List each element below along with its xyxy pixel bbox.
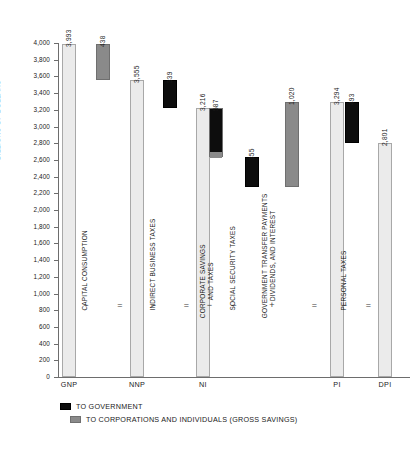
y-axis-tick: [54, 127, 59, 128]
bar-value-label: 3,993: [65, 29, 72, 47]
bar-value-label: 3,216: [199, 94, 206, 112]
bar-value-label: 3,294: [333, 87, 340, 105]
y-axis-tick: [54, 344, 59, 345]
y-axis-tick-label: 2,200: [8, 189, 50, 196]
bar-ni: [196, 108, 210, 377]
step-label: CORPORATE SAVINGSAND TAXES: [198, 244, 213, 318]
y-axis-tick: [54, 60, 59, 61]
y-axis-tick: [54, 110, 59, 111]
y-axis-tick-label: 600: [8, 323, 50, 330]
legend: TO GOVERNMENT TO CORPORATIONS AND INDIVI…: [60, 400, 297, 426]
bar-indirect-business-taxes: [163, 80, 177, 108]
bar-segment-corporations: [210, 152, 222, 158]
y-axis-tick: [54, 177, 59, 178]
y-axis-tick-label: 3,400: [8, 89, 50, 96]
y-axis-tick-label: 400: [8, 340, 50, 347]
legend-item-government: TO GOVERNMENT: [60, 400, 297, 413]
y-axis-tick: [54, 143, 59, 144]
y-axis-tick: [54, 227, 59, 228]
step-label: CAPITAL CONSUMPTION: [81, 230, 89, 310]
step-label: GOVERNMENT TRANSFER PAYMENTSDIVIDENDS, A…: [261, 193, 276, 318]
bar-segment-government: [210, 109, 222, 152]
bar-personal-taxes: [345, 102, 359, 143]
bar-value-label: 1,020: [288, 87, 295, 105]
y-axis-tick-label: 1,200: [8, 273, 50, 280]
y-axis-tick: [54, 260, 59, 261]
bar-nnp: [130, 80, 144, 377]
y-axis-tick-label: 3,000: [8, 123, 50, 130]
y-axis-tick: [54, 377, 59, 378]
y-axis-tick-label: 3,200: [8, 106, 50, 113]
step-label: SOCIAL SECURITY TAXES: [229, 226, 237, 311]
bar-dpi: [378, 143, 392, 377]
y-axis-tick: [54, 294, 59, 295]
bar-capital-consumption: [96, 44, 110, 81]
y-axis-tick-label: 800: [8, 306, 50, 313]
legend-label-corporations: TO CORPORATIONS AND INDIVIDUALS (GROSS S…: [86, 415, 297, 424]
national-income-accounting-chart: BILLIONS OF DOLLARS 02004006008001,0001,…: [0, 0, 420, 451]
y-axis-tick: [54, 160, 59, 161]
y-axis-tick: [54, 193, 59, 194]
y-axis-tick: [54, 310, 59, 311]
step-operator: =: [181, 300, 193, 310]
y-axis-tick: [54, 277, 59, 278]
bar-value-label: 355: [248, 149, 255, 161]
y-axis-tick: [54, 93, 59, 94]
legend-label-government: TO GOVERNMENT: [76, 402, 143, 411]
bar-gnp: [62, 44, 76, 377]
bar-value-label: 587: [212, 100, 219, 112]
y-axis-tick-label: 3,600: [8, 72, 50, 79]
y-axis-tick: [54, 360, 59, 361]
bar-corporate-savings-and-taxes: [209, 108, 223, 157]
bar-value-label: 2,801: [381, 129, 388, 147]
bar-value-label: 339: [166, 72, 173, 84]
step-label: PERSONAL TAXES: [340, 250, 348, 310]
step-label: INDIRECT BUSINESS TAXES: [149, 219, 157, 311]
legend-swatch-government-icon: [60, 403, 71, 410]
x-axis-line: [58, 377, 410, 378]
y-axis-title: BILLIONS OF DOLLARS: [0, 20, 1, 160]
y-axis-tick: [54, 43, 59, 44]
x-axis-label-ni: NI: [199, 380, 207, 389]
step-operator: =: [363, 300, 375, 310]
step-operator: =: [114, 300, 126, 310]
legend-swatch-corporations-icon: [70, 416, 81, 423]
y-axis-tick: [54, 210, 59, 211]
bar-value-label: 493: [348, 93, 355, 105]
bar-social-security-taxes: [245, 157, 259, 187]
y-axis-tick: [54, 243, 59, 244]
y-axis-tick-label: 1,600: [8, 239, 50, 246]
x-axis-label-pi: PI: [333, 380, 340, 389]
y-axis-tick-label: 1,400: [8, 256, 50, 263]
y-axis-tick-label: 2,400: [8, 173, 50, 180]
y-axis-tick-label: 200: [8, 356, 50, 363]
y-axis-tick-label: 3,800: [8, 56, 50, 63]
y-axis-tick-label: 1,800: [8, 223, 50, 230]
y-axis-tick-label: 2,600: [8, 156, 50, 163]
x-axis-label-gnp: GNP: [61, 380, 77, 389]
y-axis-tick-label: 4,000: [8, 39, 50, 46]
y-axis-tick-label: 2,000: [8, 206, 50, 213]
bar-government-transfer-payments-dividends-and-interest: [285, 102, 299, 187]
step-operator: =: [309, 300, 321, 310]
y-axis-tick: [54, 327, 59, 328]
bar-value-label: 438: [99, 35, 106, 47]
legend-item-corporations: TO CORPORATIONS AND INDIVIDUALS (GROSS S…: [70, 413, 297, 426]
bar-value-label: 3,555: [133, 66, 140, 84]
y-axis-tick: [54, 76, 59, 77]
bar-pi: [330, 102, 344, 377]
x-axis-label-dpi: DPI: [379, 380, 392, 389]
y-axis-tick-label: 1,000: [8, 290, 50, 297]
x-axis-label-nnp: NNP: [129, 380, 145, 389]
y-axis-tick-label: 2,800: [8, 139, 50, 146]
y-axis-tick-label: 0: [8, 373, 50, 380]
